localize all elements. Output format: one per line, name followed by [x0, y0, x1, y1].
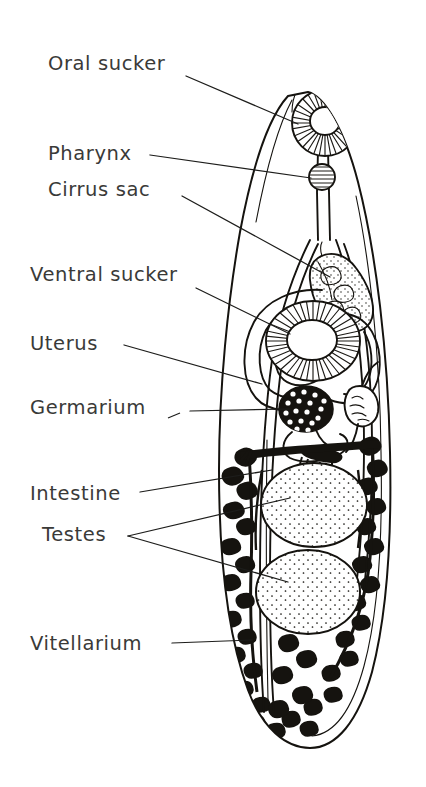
- ventral-sucker-aperture: [287, 320, 337, 360]
- pharynx-body: [309, 164, 335, 190]
- label-ventral-sucker: Ventral sucker: [30, 263, 178, 286]
- testis-anterior: [261, 463, 367, 547]
- label-vitellarium: Vitellarium: [30, 632, 142, 655]
- anatomy-diagram: Oral sucker Pharynx Cirrus sac Ventral s…: [0, 0, 426, 787]
- label-germarium: Germarium: [30, 396, 146, 419]
- leader-germarium-dash: [168, 413, 180, 418]
- testis-posterior: [256, 550, 360, 634]
- label-cirrus-sac: Cirrus sac: [48, 178, 150, 201]
- oral-sucker: [290, 74, 362, 158]
- label-intestine: Intestine: [30, 482, 121, 505]
- label-pharynx: Pharynx: [48, 142, 132, 165]
- trematode-figure: Oral sucker Pharynx Cirrus sac Ventral s…: [0, 0, 426, 787]
- esophagus-left-wall: [317, 150, 318, 240]
- label-oral-sucker: Oral sucker: [48, 52, 166, 75]
- leader-oral-sucker: [186, 76, 298, 124]
- label-uterus: Uterus: [30, 332, 98, 355]
- label-testes: Testes: [41, 523, 106, 546]
- pharynx: [309, 164, 335, 190]
